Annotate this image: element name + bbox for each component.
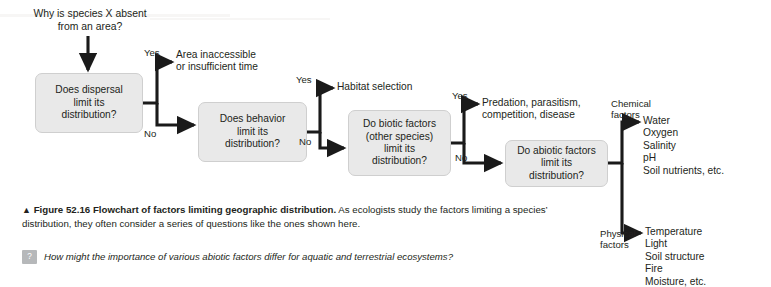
caption-title: Flowchart of factors limiting geographic… xyxy=(93,204,336,215)
decision-box-behavior[interactable]: Does behaviorlimit itsdistribution? xyxy=(198,102,307,162)
branch-label-behavior-no: No xyxy=(299,136,311,147)
branch-label-physical-factors: Physicalfactors xyxy=(600,228,636,250)
outcome-chemical-factor-list: WaterOxygenSalinitypHSoil nutrients, etc… xyxy=(643,115,724,177)
decision-box-biotic[interactable]: Do biotic factors(other species)limit it… xyxy=(348,110,451,176)
question-mark-badge-icon: ? xyxy=(22,250,37,264)
caption-question-text: How might the importance of various abio… xyxy=(44,250,453,263)
caption-triangle-icon: ▲ xyxy=(22,205,31,215)
branch-label-dispersal-no: No xyxy=(144,128,156,139)
figure-caption: ▲ Figure 52.16 Flowchart of factors limi… xyxy=(22,203,582,230)
branch-label-biotic-no: No xyxy=(455,152,467,163)
scan-artifact xyxy=(150,18,330,20)
flowchart-prompt: Why is species X absentfrom an area? xyxy=(20,8,160,33)
outcome-habitat-selection: Habitat selection xyxy=(337,81,412,93)
branch-label-chemical-factors: Chemicalfactors xyxy=(611,98,651,120)
branch-label-dispersal-yes: Yes xyxy=(144,47,160,58)
branch-label-biotic-yes: Yes xyxy=(452,90,468,101)
branch-label-behavior-yes: Yes xyxy=(296,74,312,85)
decision-box-dispersal[interactable]: Does dispersallimit itsdistribution? xyxy=(35,73,143,133)
caption-question-row: ? How might the importance of various ab… xyxy=(22,250,642,264)
figure-52-16: Why is species X absentfrom an area? Doe… xyxy=(0,0,771,287)
outcome-physical-factor-list: TemperatureLightSoil structureFireMoistu… xyxy=(645,226,706,287)
outcome-predation: Predation, parasitism,competition, disea… xyxy=(482,97,581,122)
decision-box-abiotic[interactable]: Do abiotic factorslimit itsdistribution? xyxy=(505,140,608,187)
outcome-area-inaccessible: Area inaccessibleor insufficient time xyxy=(176,49,258,74)
caption-figure-number: Figure 52.16 xyxy=(34,204,91,215)
